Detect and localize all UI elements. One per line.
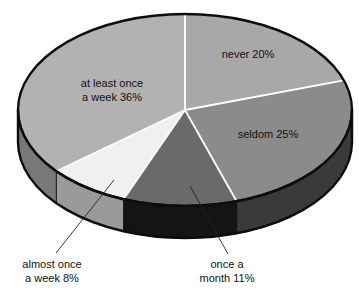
pie-callout-labels: almost oncea week 8%once amonth 11% [22,258,254,284]
slice-label-never: never 20% [222,48,275,60]
callout-label-once-a-month: once amonth 11% [200,258,255,284]
callout-label-almost-once-a-week: almost oncea week 8% [22,258,81,284]
slice-label-seldom: seldom 25% [238,128,299,140]
pie-chart-svg: never 20%seldom 25%at least oncea week 3… [0,0,359,293]
pie-chart-figure: never 20%seldom 25%at least oncea week 3… [0,0,359,293]
